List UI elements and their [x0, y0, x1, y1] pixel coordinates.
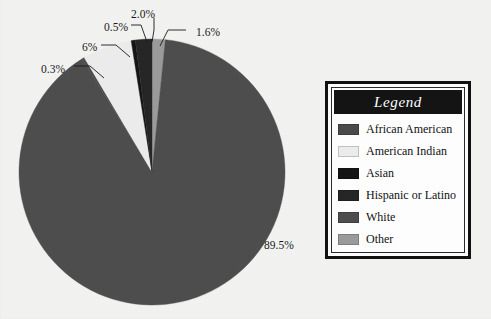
pie-slice-group — [19, 39, 285, 305]
legend-color-swatch — [338, 190, 359, 201]
legend-item-label: Other — [366, 232, 393, 247]
legend-item-label: American Indian — [366, 144, 447, 159]
legend-item-label: Hispanic or Latino — [366, 188, 456, 203]
legend-inner-frame: Legend African AmericanAmerican IndianAs… — [331, 87, 465, 253]
legend-row: African American — [338, 119, 460, 140]
legend-items: African AmericanAmerican IndianAsianHisp… — [332, 114, 464, 252]
legend-row: Other — [338, 229, 460, 250]
slice-percent-label: 89.5% — [264, 239, 294, 251]
slice-percent-label: 6% — [82, 41, 98, 53]
legend-item-label: White — [366, 210, 395, 225]
legend-color-swatch — [338, 234, 359, 245]
legend-row: Hispanic or Latino — [338, 185, 460, 206]
legend-color-swatch — [338, 146, 359, 157]
legend-item-label: African American — [366, 122, 452, 137]
slice-percent-label: 1.6% — [196, 26, 220, 38]
legend-row: White — [338, 207, 460, 228]
slice-percent-label: 2.0% — [131, 8, 155, 20]
leader-line — [152, 18, 154, 42]
legend-color-swatch — [338, 124, 359, 135]
slice-percent-label: 0.5% — [104, 21, 128, 33]
slice-percent-label: 0.3% — [41, 63, 65, 75]
legend-box: Legend African AmericanAmerican IndianAs… — [325, 81, 471, 259]
legend-item-label: Asian — [366, 166, 394, 181]
legend-row: Asian — [338, 163, 460, 184]
pie-chart-page: 1.6%89.5%0.3%6%0.5%2.0% Legend African A… — [0, 0, 491, 319]
legend-color-swatch — [338, 212, 359, 223]
legend-title-bar: Legend — [334, 90, 462, 114]
legend-row: American Indian — [338, 141, 460, 162]
legend-color-swatch — [338, 168, 359, 179]
legend-title: Legend — [374, 94, 422, 111]
